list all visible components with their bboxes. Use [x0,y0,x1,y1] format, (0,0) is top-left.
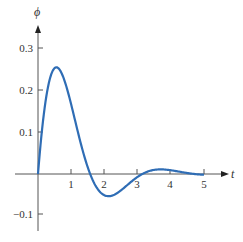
x-tick-label: 4 [167,178,173,190]
x-tick-label: 1 [68,178,74,190]
phi-curve [38,67,204,196]
x-axis-arrow-icon [221,171,229,177]
x-tick-label: 5 [201,178,207,190]
y-ticks: 0.3 0.2 0.1 −0.1 [13,42,43,220]
y-tick-label: 0.3 [19,42,33,54]
x-axis-label: t [231,167,235,181]
y-tick-label: 0.2 [19,84,33,96]
chart-figure: ϕ t 0.3 0.2 0.1 −0.1 1 2 3 4 5 [0,0,243,242]
y-axis-label: ϕ [34,5,40,19]
y-tick-label: −0.1 [13,208,33,220]
y-tick-label: 0.1 [19,126,33,138]
y-axis-arrow-icon [35,25,41,33]
x-tick-label: 2 [101,178,107,190]
